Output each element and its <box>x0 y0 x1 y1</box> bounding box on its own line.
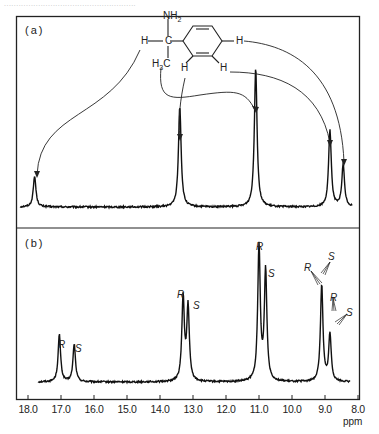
x-tick-label: 10.0 <box>282 403 301 415</box>
peak-label-r3: R <box>256 241 263 252</box>
peak-label-s1: S <box>75 343 82 354</box>
x-tick-label: 13.0 <box>183 403 202 415</box>
carbon-label: C <box>165 35 172 46</box>
peak-label-r1: R <box>58 339 65 350</box>
nh2-label: NH2 <box>163 10 181 23</box>
x-axis-unit-label: ppm <box>343 416 362 427</box>
ortho-h-label: H <box>181 62 188 73</box>
peak-label-r5: R <box>330 292 337 303</box>
multiplet-label-lines <box>311 262 347 325</box>
x-tick-label: 16.0 <box>84 403 103 415</box>
peak-label-s5: S <box>346 307 353 318</box>
x-tick-label: 15.0 <box>117 403 136 415</box>
x-tick-label: 11.0 <box>250 403 268 415</box>
peak-label-s3: S <box>268 268 275 279</box>
x-tick-label: 8.0 <box>351 403 365 415</box>
spectrum-a-trace <box>20 70 352 208</box>
x-tick-label: 14.0 <box>150 403 169 415</box>
x-tick-label: 18.0 <box>18 403 37 415</box>
peak-label-r2: R <box>177 289 184 300</box>
nmr-figure <box>0 0 379 434</box>
methine-h-label: H <box>141 35 148 46</box>
para-h-label: H <box>236 35 243 46</box>
x-tick-label: 9.0 <box>318 403 332 415</box>
peak-label-s4: S <box>328 251 335 262</box>
panel-b-label: (b) <box>25 237 44 249</box>
nh2-subscript: 2 <box>177 16 181 23</box>
meta-h-label: H <box>220 62 227 73</box>
peak-label-s2: S <box>193 300 200 311</box>
x-tick-label: 17.0 <box>51 403 70 415</box>
x-tick-label: 12.0 <box>216 403 235 415</box>
assignment-arrows <box>37 41 344 175</box>
arrow-heads <box>34 106 347 178</box>
methyl-c: C <box>163 58 170 69</box>
methyl-label: H3C <box>152 58 170 71</box>
x-axis-ticks <box>28 395 358 400</box>
nh-text: NH <box>163 10 177 21</box>
peak-label-r4: R <box>304 262 311 273</box>
panel-a-label: (a) <box>25 24 44 36</box>
benzene-ring <box>148 19 234 63</box>
